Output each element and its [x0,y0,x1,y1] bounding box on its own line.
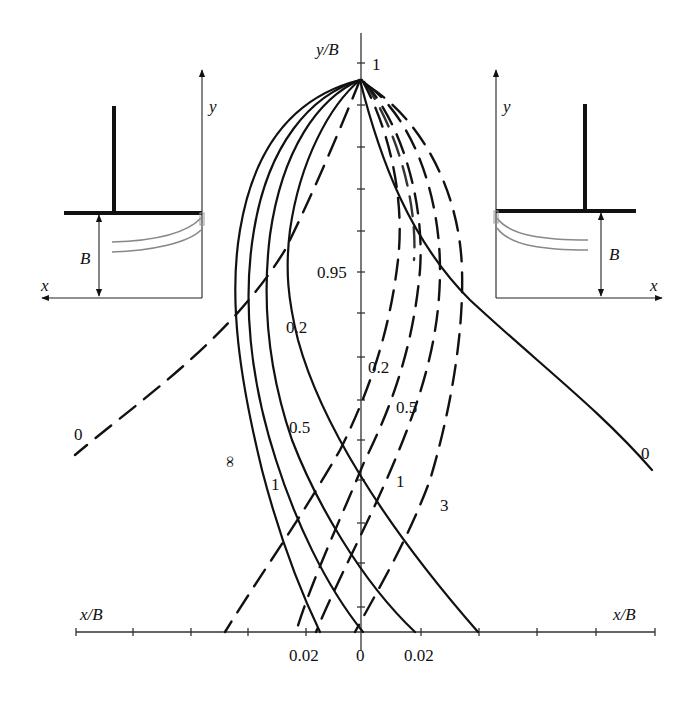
x-axis-label-right: x/B [612,605,636,624]
inset-left: y x B [40,70,217,298]
label-curve-infinity: ∞ [221,456,240,468]
x-tick-label-left: 0.02 [289,646,319,665]
curve-solid-02 [288,80,478,632]
label-curve-0-right: 0 [641,444,650,463]
dashed-curves [75,80,462,632]
label-curve-02-right: 0.2 [368,358,389,377]
inset-right-contour-2 [497,228,588,250]
label-curve-02-left: 0.2 [286,318,307,337]
inset-right-y-label: y [501,97,511,116]
inset-right: y x B [494,70,662,298]
label-curve-3-right: 3 [440,496,449,515]
label-curve-05-right: 0.5 [396,398,417,417]
y-axis-label: y/B [314,40,339,59]
label-curve-1-left: 1 [271,475,280,494]
inset-left-dim-label: B [80,249,91,268]
label-curve-05-left: 0.5 [289,418,310,437]
curve-solid-infinity [235,80,360,632]
y-tick-label-095: 0.95 [317,263,347,282]
x-tick-label-right: 0.02 [404,646,434,665]
inset-left-x-label: x [40,276,49,295]
inset-left-y-label: y [207,97,217,116]
inset-right-contour-1 [497,218,588,240]
label-curve-0-left: 0 [74,425,83,444]
curve-solid-05 [267,80,415,632]
y-tick-label-1: 1 [372,55,381,74]
label-curve-1-right: 1 [396,472,405,491]
curve-labels: ∞ 1 0.5 0.2 0 0.2 0.5 1 3 0 [74,318,650,515]
inset-right-x-label: x [649,276,658,295]
x-tick-label-zero: 0 [356,646,365,665]
solid-curves [235,80,652,632]
inset-right-dim-label: B [609,245,620,264]
chart: y/B 1 0.95 x/B x/B 0.02 0 0.02 [0,0,693,701]
x-axis-label-left: x/B [79,605,103,624]
